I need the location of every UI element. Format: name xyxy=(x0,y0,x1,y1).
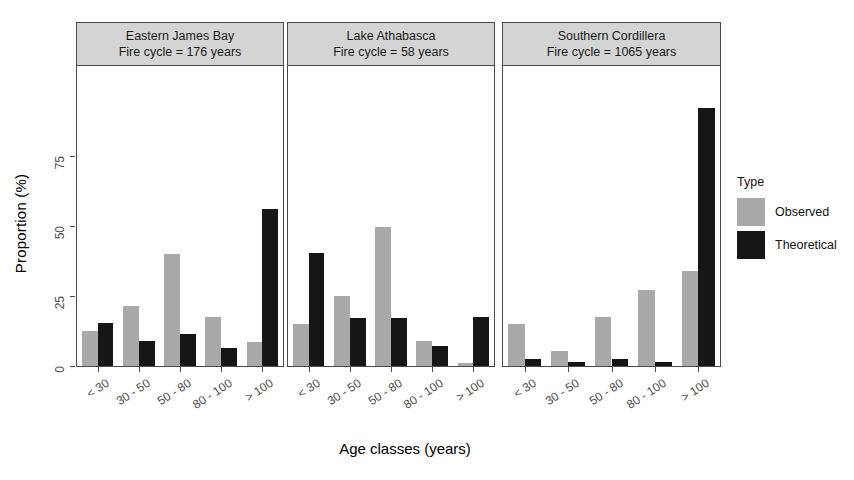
y-axis-title: Proportion (%) xyxy=(12,144,29,304)
bar-theoretical xyxy=(262,209,278,366)
y-tick-mark xyxy=(70,226,75,227)
legend-label-theoretical: Theoretical xyxy=(775,238,837,252)
x-tick-mark xyxy=(180,367,181,372)
bar-theoretical xyxy=(698,108,715,366)
bar-theoretical xyxy=(391,318,407,366)
bar-theoretical xyxy=(98,323,114,366)
y-tick-label: 25 xyxy=(53,296,67,322)
bar-theoretical xyxy=(350,318,366,366)
x-tick-mark xyxy=(432,367,433,372)
panel-title: Eastern James Bay xyxy=(126,29,234,44)
bar-observed xyxy=(416,341,432,366)
x-tick-mark xyxy=(262,367,263,372)
bar-theoretical xyxy=(568,362,585,366)
x-tick-mark xyxy=(612,367,613,372)
y-tick-mark xyxy=(70,156,75,157)
bar-group xyxy=(77,66,283,366)
x-tick-mark xyxy=(698,367,699,372)
plot-area xyxy=(76,66,284,367)
bar-theoretical xyxy=(525,359,542,366)
chart-figure: Proportion (%) 0255075 Eastern James Bay… xyxy=(0,0,854,480)
bar-observed xyxy=(458,363,474,366)
bar-observed xyxy=(334,296,350,366)
legend: Type Observed Theoretical xyxy=(737,175,852,264)
panel-subtitle: Fire cycle = 176 years xyxy=(119,45,242,60)
panel-title: Southern Cordillera xyxy=(558,29,666,44)
x-tick-mark xyxy=(568,367,569,372)
x-tick-mark xyxy=(391,367,392,372)
panel-header: Eastern James BayFire cycle = 176 years xyxy=(76,22,284,66)
y-tick-label: 0 xyxy=(53,366,67,392)
bar-observed xyxy=(638,290,655,366)
bar-observed xyxy=(375,227,391,366)
panel-header: Lake AthabascaFire cycle = 58 years xyxy=(287,22,495,66)
x-tick-mark xyxy=(350,367,351,372)
bar-observed xyxy=(508,324,525,366)
bar-group xyxy=(288,66,494,366)
bar-theoretical xyxy=(221,348,237,366)
legend-item-theoretical: Theoretical xyxy=(737,231,852,259)
bar-theoretical xyxy=(655,362,672,366)
bar-observed xyxy=(164,254,180,366)
bar-observed xyxy=(595,317,612,366)
plot-area xyxy=(287,66,495,367)
x-tick-mark xyxy=(525,367,526,372)
x-tick-mark xyxy=(473,367,474,372)
x-tick-mark xyxy=(221,367,222,372)
x-tick-mark xyxy=(655,367,656,372)
y-tick-mark xyxy=(70,366,75,367)
bar-observed xyxy=(551,351,568,366)
legend-item-observed: Observed xyxy=(737,198,852,226)
bar-observed xyxy=(205,317,221,366)
panel-subtitle: Fire cycle = 1065 years xyxy=(547,45,677,60)
legend-title: Type xyxy=(737,175,852,189)
bar-theoretical xyxy=(180,334,196,366)
y-tick-label: 50 xyxy=(53,226,67,252)
bar-observed xyxy=(82,331,98,366)
panel-title: Lake Athabasca xyxy=(347,29,436,44)
y-tick-mark xyxy=(70,296,75,297)
legend-label-observed: Observed xyxy=(775,205,829,219)
x-tick-mark xyxy=(139,367,140,372)
plot-area xyxy=(502,66,721,367)
bar-theoretical xyxy=(309,253,325,366)
legend-swatch-theoretical xyxy=(737,231,765,259)
bar-group xyxy=(503,66,720,366)
panel-subtitle: Fire cycle = 58 years xyxy=(333,45,449,60)
bar-observed xyxy=(293,324,309,366)
bar-theoretical xyxy=(612,359,629,366)
x-tick-mark xyxy=(98,367,99,372)
x-axis-title: Age classes (years) xyxy=(75,440,735,457)
x-tick-mark xyxy=(309,367,310,372)
y-tick-label: 75 xyxy=(53,156,67,182)
bar-observed xyxy=(682,271,699,366)
bar-observed xyxy=(247,342,263,366)
legend-swatch-observed xyxy=(737,198,765,226)
bar-theoretical xyxy=(139,341,155,366)
bar-observed xyxy=(123,306,139,366)
bar-theoretical xyxy=(432,346,448,366)
panel-header: Southern CordilleraFire cycle = 1065 yea… xyxy=(502,22,721,66)
bar-theoretical xyxy=(473,317,489,366)
